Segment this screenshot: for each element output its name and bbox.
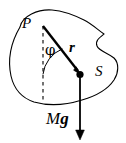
label-angle-phi: φ [45,43,56,58]
label-vector-r: r [69,40,75,55]
label-weight-force-M-part: M [46,109,60,128]
label-pivot-P: P [22,16,31,31]
label-weight-force-g-part: g [60,109,69,128]
weight-force-arrow [76,74,85,140]
label-center-of-mass-S: S [95,64,103,79]
physics-diagram-figure: P φ r S Mg [0,0,126,143]
label-weight-force-Mg: Mg [46,110,69,127]
